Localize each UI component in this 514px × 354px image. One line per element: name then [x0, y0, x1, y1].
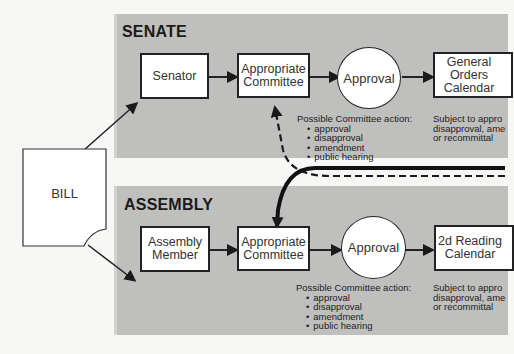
bill-label: BILL — [23, 186, 106, 201]
senate-calendar-note: Subject to appro disapproval, ame or rec… — [433, 114, 505, 143]
assembly-committee-actions: Possible Committee action: approval disa… — [296, 283, 411, 331]
senator-box: Senator — [140, 53, 209, 99]
senate-committee-box: Appropriate Committee — [237, 53, 310, 98]
senate-committee-actions: Possible Committee action: approval disa… — [297, 114, 412, 162]
second-reading-calendar-box: 2d Reading Calendar — [434, 225, 514, 271]
assembly-approval-circle: Approval — [341, 216, 406, 279]
general-orders-calendar-box: General Orders Calendar — [433, 52, 513, 98]
assembly-committee-box: Appropriate Committee — [237, 226, 310, 271]
senate-approval-circle: Approval — [337, 47, 401, 109]
assembly-member-box: Assembly Member — [140, 226, 210, 272]
assembly-calendar-note: Subject to appro disapproval, ame or rec… — [433, 283, 505, 312]
